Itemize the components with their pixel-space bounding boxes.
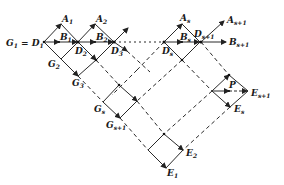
vertex-dots [43, 41, 231, 136]
diamond-cell-gs [103, 85, 137, 118]
label-d2: D2 [74, 46, 87, 57]
label-as1: As+1 [226, 15, 247, 26]
lattice-diagram: G1 = D1 A1 A2 B1 B2 D2 D3 G2 G3 As Bs Ds… [0, 0, 284, 185]
label-e1: E1 [166, 168, 178, 179]
dashed-connectors [78, 42, 230, 150]
label-gs: Gs [94, 104, 106, 115]
label-es: Es [233, 104, 245, 115]
label-g3: G3 [72, 78, 84, 89]
label-g2: G2 [48, 59, 60, 70]
diamond-cell-e [148, 134, 183, 168]
label-bs1: Bs+1 [228, 37, 249, 48]
label-e2: E2 [185, 148, 197, 159]
diamond-cell-s [164, 21, 226, 60]
label-ds1: Ds+1 [193, 29, 214, 40]
diagram-canvas: G1 = D1 A1 A2 B1 B2 D2 D3 G2 G3 As Bs Ds… [0, 0, 284, 185]
label-es1: Es+1 [250, 88, 270, 99]
label-a1: A1 [61, 14, 73, 25]
label-bs: Bs [179, 32, 192, 43]
d3-outgoing-arrows [114, 28, 162, 51]
label-g1-d1: G1 = D1 [6, 38, 44, 49]
labels: G1 = D1 A1 A2 B1 B2 D2 D3 G2 G3 As Bs Ds… [6, 13, 270, 179]
label-a2: A2 [95, 14, 107, 25]
label-gs1: Gs+1 [106, 120, 126, 131]
label-ds: Ds [161, 46, 174, 57]
label-p: P [228, 80, 236, 90]
label-as: As [179, 13, 191, 24]
label-d3: D3 [110, 46, 123, 57]
